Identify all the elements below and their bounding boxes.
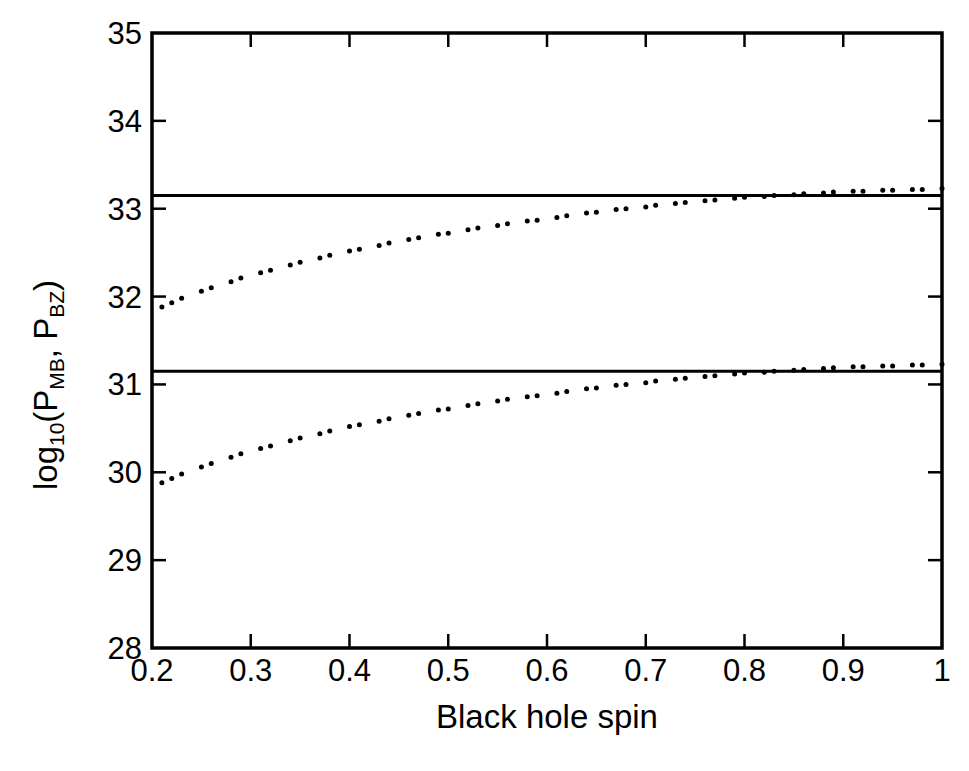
data-point [683, 376, 688, 381]
data-point [554, 391, 559, 396]
data-point [317, 255, 322, 260]
data-point [495, 399, 500, 404]
data-point [801, 191, 806, 196]
data-point [831, 190, 836, 195]
data-point [742, 371, 747, 376]
data-point [406, 237, 411, 242]
x-tick-label: 0.4 [328, 655, 371, 686]
data-point [298, 436, 303, 441]
data-point [673, 201, 678, 206]
data-point [466, 227, 471, 232]
data-point [505, 397, 510, 402]
data-point [851, 364, 856, 369]
y-tick-label: 29 [108, 545, 142, 576]
data-point [703, 198, 708, 203]
data-point [762, 194, 767, 199]
data-point [525, 219, 530, 224]
y-tick-label: 34 [108, 105, 142, 136]
data-point [791, 368, 796, 373]
data-point [643, 380, 648, 385]
ylabel-mid: , P [27, 318, 64, 358]
data-point [179, 296, 184, 301]
data-point [732, 371, 737, 376]
ylabel-sub-bz: BZ [45, 291, 68, 318]
data-point [258, 270, 263, 275]
data-point [772, 193, 777, 198]
data-point [525, 394, 530, 399]
data-point [594, 385, 599, 390]
y-tick-label: 32 [108, 281, 142, 312]
data-point [347, 248, 352, 253]
data-point [624, 206, 629, 211]
data-point [732, 196, 737, 201]
data-point [703, 374, 708, 379]
ylabel-sub-mb: MB [45, 358, 68, 390]
data-point [238, 276, 243, 281]
data-point [564, 389, 569, 394]
x-tick-label: 0.8 [723, 655, 766, 686]
y-tick-label: 33 [108, 193, 142, 224]
y-tick-label: 35 [108, 18, 142, 49]
data-point [436, 407, 441, 412]
data-point [831, 365, 836, 370]
data-point [910, 363, 915, 368]
data-point [159, 480, 164, 485]
data-point [446, 407, 451, 412]
x-tick-label: 0.5 [427, 655, 470, 686]
data-point [624, 382, 629, 387]
data-point [564, 213, 569, 218]
data-point [475, 226, 480, 231]
data-point [357, 422, 362, 427]
data-point [861, 364, 866, 369]
data-point [742, 195, 747, 200]
data-point [851, 189, 856, 194]
data-point [268, 268, 273, 273]
x-tick-label: 0.3 [229, 655, 272, 686]
y-tick-label: 30 [108, 457, 142, 488]
data-point [377, 243, 382, 248]
data-point [387, 240, 392, 245]
data-point [169, 300, 174, 305]
data-point [288, 438, 293, 443]
y-axis-title: log10(PMB, PBZ) [29, 280, 66, 490]
data-point [416, 411, 421, 416]
y-tick-label: 31 [108, 369, 142, 400]
y-tick-label: 28 [108, 633, 142, 664]
data-point [920, 363, 925, 368]
data-point [199, 289, 204, 294]
data-point [406, 413, 411, 418]
data-point [890, 188, 895, 193]
ylabel-close: ) [27, 280, 64, 291]
data-point [387, 416, 392, 421]
data-point [910, 187, 915, 192]
x-tick-label: 0.9 [822, 655, 865, 686]
data-point [327, 253, 332, 258]
data-point [169, 476, 174, 481]
data-point [436, 232, 441, 237]
data-point [238, 451, 243, 456]
data-point [199, 465, 204, 470]
data-point [643, 204, 648, 209]
x-tick-label: 0.6 [525, 655, 568, 686]
data-point [268, 443, 273, 448]
data-point [762, 370, 767, 375]
data-point [347, 424, 352, 429]
data-point [673, 377, 678, 382]
data-point [880, 188, 885, 193]
data-point [229, 279, 234, 284]
data-point [880, 363, 885, 368]
data-point [495, 223, 500, 228]
data-point [446, 231, 451, 236]
data-point [159, 305, 164, 310]
data-point [327, 428, 332, 433]
data-point [801, 367, 806, 372]
data-point [890, 363, 895, 368]
data-point [614, 383, 619, 388]
data-point [209, 285, 214, 290]
x-tick-label: 0.7 [624, 655, 667, 686]
ylabel-prefix: log [27, 446, 64, 490]
data-point [535, 218, 540, 223]
data-point [584, 211, 589, 216]
data-point [377, 419, 382, 424]
data-point [712, 197, 717, 202]
